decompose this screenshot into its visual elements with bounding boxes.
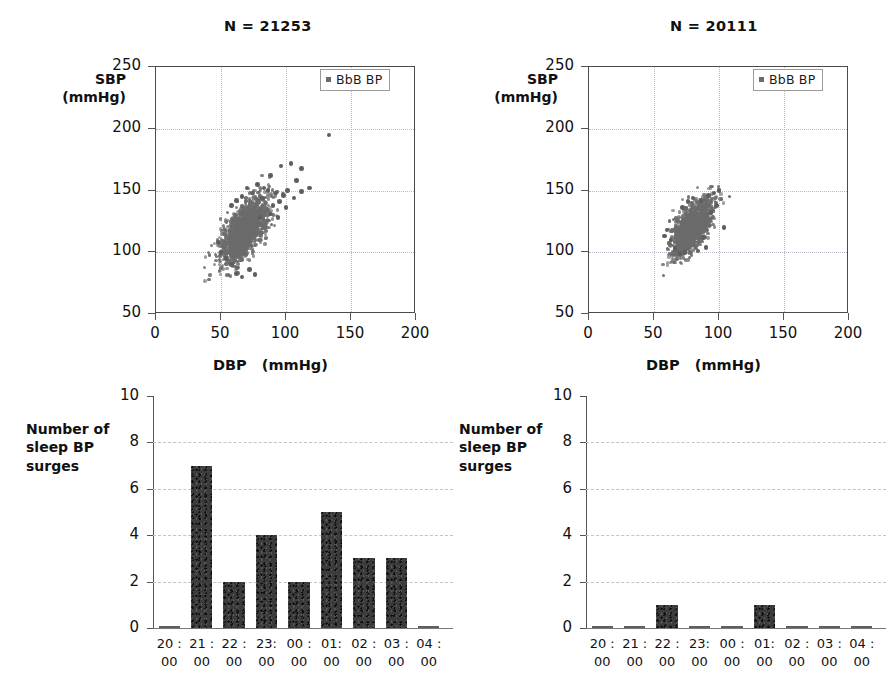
x-tick-label: 0	[125, 324, 185, 342]
scatter-point-outlier	[276, 215, 281, 220]
bar[interactable]	[159, 626, 180, 628]
scatter-point	[692, 248, 695, 251]
scatter-point	[697, 241, 700, 244]
scatter-point	[679, 257, 682, 260]
bar[interactable]	[418, 626, 439, 628]
scatter-point	[241, 219, 244, 222]
scatter-point	[708, 225, 711, 228]
bar[interactable]	[256, 535, 277, 628]
scatter-point-outlier	[255, 182, 260, 187]
scatter-right-legend[interactable]: BbB BP	[753, 69, 823, 91]
bar[interactable]	[819, 626, 840, 628]
bar[interactable]	[689, 626, 710, 628]
scatter-point	[219, 217, 222, 220]
scatter-point	[722, 201, 725, 204]
scatter-point	[690, 253, 693, 256]
scatter-left-xlabel: DBP (mmHg)	[213, 357, 328, 373]
x-tick-label: 00 : 00	[716, 635, 748, 670]
gridline-horizontal	[589, 252, 847, 253]
y-tick	[147, 396, 153, 397]
scatter-point-outlier	[678, 251, 683, 256]
bar[interactable]	[786, 626, 807, 628]
y-tick-label: 0	[97, 618, 139, 636]
bar[interactable]	[191, 466, 212, 628]
scatter-point	[682, 245, 685, 248]
y-tick-label: 8	[530, 432, 572, 450]
y-tick	[147, 582, 153, 583]
scatter-point-outlier	[701, 235, 706, 240]
scatter-point-outlier	[673, 246, 678, 251]
scatter-point	[239, 250, 242, 253]
scatter-point	[213, 263, 216, 266]
bar[interactable]	[353, 558, 374, 628]
scatter-point	[254, 243, 257, 246]
bar[interactable]	[386, 558, 407, 628]
scatter-left-legend[interactable]: BbB BP	[320, 69, 390, 91]
bar[interactable]	[754, 605, 775, 628]
scatter-point	[237, 237, 240, 240]
scatter-point	[673, 261, 676, 264]
y-tick-label: 150	[97, 180, 141, 198]
scatter-point	[225, 267, 228, 270]
x-tick-label: 150	[753, 324, 813, 342]
scatter-point	[677, 215, 680, 218]
y-tick-label: 250	[97, 56, 141, 74]
scatter-point	[248, 258, 251, 261]
y-tick-label: 200	[530, 118, 574, 136]
gridline-horizontal	[586, 535, 886, 536]
x-tick-label: 01: 00	[748, 635, 780, 670]
y-axis-line	[153, 396, 154, 628]
y-tick-label: 6	[530, 479, 572, 497]
scatter-point	[244, 253, 247, 256]
x-tick-label: 50	[623, 324, 683, 342]
scatter-point	[709, 217, 712, 220]
scatter-point	[208, 253, 211, 256]
x-tick-label: 02 : 00	[781, 635, 813, 670]
y-tick-label: 150	[530, 180, 574, 198]
scatter-point-outlier	[294, 178, 299, 183]
x-tick-label: 50	[190, 324, 250, 342]
y-tick	[147, 489, 153, 490]
scatter-point-outlier	[706, 193, 711, 198]
bar[interactable]	[592, 626, 613, 628]
y-tick-label: 4	[530, 525, 572, 543]
bar-right-plot-area[interactable]	[586, 396, 878, 628]
x-tick-label: 03 : 00	[380, 635, 412, 670]
x-tick-label: 23: 00	[683, 635, 715, 670]
scatter-point-outlier	[714, 203, 719, 208]
scatter-point-outlier	[234, 198, 239, 203]
x-tick-label: 21 : 00	[185, 635, 217, 670]
x-tick	[220, 313, 221, 320]
scatter-point-outlier	[277, 199, 282, 204]
bar[interactable]	[851, 626, 872, 628]
bar[interactable]	[656, 605, 677, 628]
scatter-point	[681, 198, 684, 201]
y-tick	[580, 396, 586, 397]
y-tick	[148, 313, 155, 314]
scatter-point	[241, 257, 244, 260]
gridline-horizontal	[156, 129, 414, 130]
scatter-point	[718, 197, 721, 200]
scatter-point-outlier	[683, 250, 688, 255]
x-tick-label: 200	[818, 324, 878, 342]
scatter-point	[703, 227, 706, 230]
gridline-horizontal	[586, 489, 886, 490]
scatter-point-outlier	[327, 133, 332, 138]
scatter-left-plot-area[interactable]	[155, 66, 415, 313]
bar[interactable]	[223, 582, 244, 628]
y-tick	[580, 442, 586, 443]
scatter-point-outlier	[253, 272, 258, 277]
scatter-point	[264, 201, 267, 204]
scatter-point-outlier	[722, 225, 727, 230]
bar[interactable]	[624, 626, 645, 628]
bar[interactable]	[288, 582, 309, 628]
scatter-point	[208, 273, 211, 276]
scatter-point	[267, 198, 270, 201]
x-tick-label: 200	[385, 324, 445, 342]
scatter-right-plot-area[interactable]	[588, 66, 848, 313]
bar[interactable]	[721, 626, 742, 628]
scatter-point	[248, 204, 251, 207]
gridline-horizontal	[586, 582, 886, 583]
scatter-point	[204, 255, 207, 258]
bar[interactable]	[321, 512, 342, 628]
